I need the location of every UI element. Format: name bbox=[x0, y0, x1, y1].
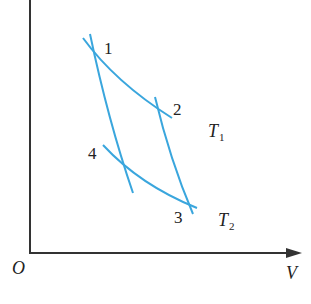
isotherm-t1-curve bbox=[83, 38, 172, 118]
x-axis-arrow-icon bbox=[286, 248, 302, 258]
point-label-2: 2 bbox=[173, 101, 182, 118]
pv-diagram bbox=[0, 0, 311, 304]
point-label-3: 3 bbox=[174, 209, 183, 226]
isotherm-t2-curve bbox=[103, 145, 197, 208]
origin-label: O bbox=[12, 259, 25, 277]
point-label-1: 1 bbox=[104, 40, 113, 57]
point-label-4: 4 bbox=[88, 145, 97, 162]
x-axis-label: V bbox=[286, 264, 297, 282]
isotherm-label-t1: T1 bbox=[208, 122, 225, 143]
isotherm-label-t2: T2 bbox=[218, 211, 235, 232]
